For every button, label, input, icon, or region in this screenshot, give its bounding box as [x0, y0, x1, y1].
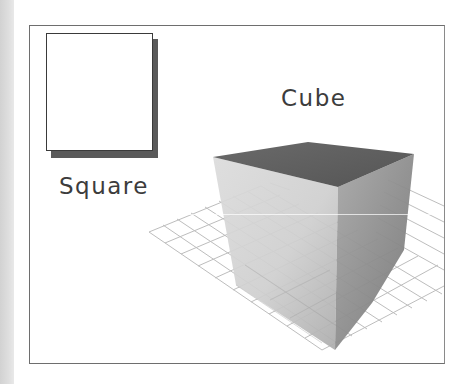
scan-artifact-line	[152, 214, 444, 215]
cube-left-face	[213, 157, 338, 350]
cube-scene	[0, 0, 472, 384]
cube-shape	[213, 142, 414, 350]
cube-right-face	[335, 154, 414, 350]
